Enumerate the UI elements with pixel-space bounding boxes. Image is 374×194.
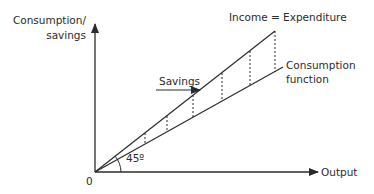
income-expenditure-line	[95, 31, 275, 172]
income-expenditure-label: Income = Expenditure	[229, 11, 347, 24]
y-axis-label-line1: Consumption/	[8, 14, 86, 27]
x-axis-label: Output	[321, 166, 357, 179]
y-axis-label-line2: savings	[8, 29, 86, 42]
origin-label: 0	[86, 175, 93, 188]
angle-label: 45º	[126, 152, 144, 165]
consumption-function-label-line1: Consumption	[286, 59, 356, 72]
savings-label: Savings	[159, 75, 200, 88]
consumption-function-label-line2: function	[286, 73, 329, 86]
